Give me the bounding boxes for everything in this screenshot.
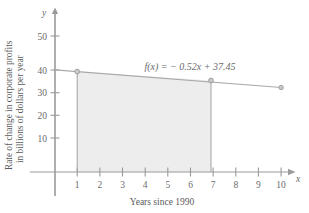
- chart-figure: 1 2 3 4 5 6 7 8 9 10 10 20 30 40 50 y x …: [0, 0, 309, 213]
- y-tick-label: 50: [38, 32, 48, 42]
- shaded-area-region: [77, 72, 211, 172]
- x-tick-label: 9: [256, 180, 261, 190]
- x-tick-label: 6: [188, 180, 193, 190]
- line-chart-svg: 1 2 3 4 5 6 7 8 9 10 10 20 30 40 50 y x …: [0, 0, 309, 213]
- y-tick-label: 30: [38, 88, 48, 98]
- x-tick-labels: 1 2 3 4 5 6 7 8 9 10: [75, 180, 286, 190]
- data-point-x10: [279, 85, 283, 89]
- y-tick-label: 10: [38, 134, 48, 144]
- x-axis-title: Years since 1990: [130, 197, 195, 207]
- x-tick-label: 10: [276, 180, 286, 190]
- y-tick-label: 20: [38, 111, 48, 121]
- data-point-x1: [75, 69, 80, 74]
- x-axis-symbol: x: [295, 174, 301, 184]
- y-axis-title-line2: in billions of dollars per year: [15, 54, 25, 163]
- x-tick-label: 5: [165, 180, 170, 190]
- x-tick-label: 3: [120, 180, 125, 190]
- x-tick-label: 1: [75, 180, 80, 190]
- x-tick-label: 4: [143, 180, 148, 190]
- x-tick-label: 7: [211, 180, 216, 190]
- y-tick-label: 40: [38, 66, 48, 76]
- x-tick-label: 2: [98, 180, 103, 190]
- equation-annotation: f(x) = − 0.52x + 37.45: [144, 61, 235, 73]
- x-tick-label: 8: [233, 180, 238, 190]
- y-axis-symbol: y: [41, 8, 47, 18]
- y-tick-labels: 10 20 30 40 50: [38, 32, 48, 144]
- data-point-x6: [209, 78, 214, 83]
- y-axis-title-line1: Rate of change in corporate profits: [4, 40, 14, 170]
